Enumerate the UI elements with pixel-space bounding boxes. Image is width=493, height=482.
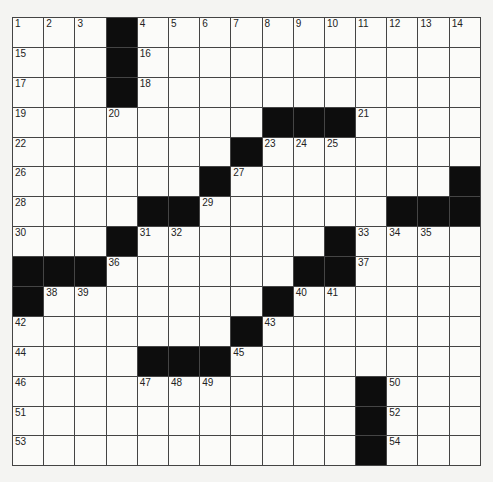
grid-cell[interactable] <box>74 77 105 107</box>
grid-cell[interactable] <box>324 316 355 346</box>
grid-cell[interactable] <box>106 286 137 316</box>
grid-cell[interactable]: 27 <box>230 166 261 196</box>
grid-cell[interactable] <box>137 137 168 167</box>
grid-cell[interactable] <box>106 406 137 436</box>
grid-cell[interactable] <box>43 107 74 137</box>
grid-cell[interactable] <box>43 166 74 196</box>
grid-cell[interactable] <box>324 406 355 436</box>
grid-cell[interactable]: 53 <box>12 435 43 465</box>
grid-cell[interactable] <box>324 77 355 107</box>
grid-cell[interactable] <box>293 346 324 376</box>
grid-cell[interactable] <box>199 107 230 137</box>
grid-cell[interactable] <box>386 107 417 137</box>
grid-cell[interactable] <box>74 435 105 465</box>
grid-cell[interactable] <box>449 286 480 316</box>
grid-cell[interactable] <box>293 47 324 77</box>
grid-cell[interactable]: 12 <box>386 17 417 47</box>
grid-cell[interactable] <box>43 47 74 77</box>
grid-cell[interactable] <box>386 77 417 107</box>
grid-cell[interactable] <box>324 435 355 465</box>
grid-cell[interactable] <box>74 107 105 137</box>
grid-cell[interactable] <box>262 376 293 406</box>
grid-cell[interactable]: 13 <box>417 17 448 47</box>
grid-cell[interactable] <box>417 77 448 107</box>
grid-cell[interactable]: 35 <box>417 226 448 256</box>
grid-cell[interactable]: 29 <box>199 196 230 226</box>
grid-cell[interactable] <box>106 316 137 346</box>
grid-cell[interactable] <box>168 435 199 465</box>
grid-cell[interactable] <box>355 47 386 77</box>
grid-cell[interactable] <box>199 286 230 316</box>
grid-cell[interactable]: 23 <box>262 137 293 167</box>
grid-cell[interactable] <box>417 406 448 436</box>
grid-cell[interactable] <box>168 107 199 137</box>
grid-cell[interactable] <box>293 77 324 107</box>
grid-cell[interactable] <box>262 226 293 256</box>
grid-cell[interactable] <box>386 256 417 286</box>
grid-cell[interactable] <box>449 77 480 107</box>
grid-cell[interactable] <box>74 166 105 196</box>
grid-cell[interactable]: 49 <box>199 376 230 406</box>
grid-cell[interactable] <box>43 406 74 436</box>
grid-cell[interactable] <box>386 286 417 316</box>
grid-cell[interactable]: 46 <box>12 376 43 406</box>
grid-cell[interactable] <box>324 376 355 406</box>
grid-cell[interactable] <box>449 346 480 376</box>
grid-cell[interactable] <box>43 346 74 376</box>
grid-cell[interactable] <box>199 406 230 436</box>
grid-cell[interactable] <box>106 346 137 376</box>
grid-cell[interactable] <box>43 226 74 256</box>
grid-cell[interactable] <box>449 376 480 406</box>
grid-cell[interactable]: 2 <box>43 17 74 47</box>
grid-cell[interactable] <box>168 77 199 107</box>
grid-cell[interactable] <box>386 346 417 376</box>
grid-cell[interactable]: 36 <box>106 256 137 286</box>
grid-cell[interactable] <box>262 406 293 436</box>
grid-cell[interactable] <box>137 256 168 286</box>
grid-cell[interactable] <box>386 137 417 167</box>
grid-cell[interactable] <box>293 166 324 196</box>
grid-cell[interactable] <box>324 196 355 226</box>
grid-cell[interactable] <box>74 346 105 376</box>
grid-cell[interactable] <box>199 316 230 346</box>
grid-cell[interactable] <box>137 107 168 137</box>
grid-cell[interactable]: 48 <box>168 376 199 406</box>
grid-cell[interactable] <box>449 316 480 346</box>
grid-cell[interactable]: 19 <box>12 107 43 137</box>
grid-cell[interactable] <box>355 77 386 107</box>
grid-cell[interactable]: 37 <box>355 256 386 286</box>
grid-cell[interactable] <box>43 376 74 406</box>
grid-cell[interactable] <box>262 47 293 77</box>
grid-cell[interactable] <box>417 166 448 196</box>
grid-cell[interactable] <box>262 346 293 376</box>
grid-cell[interactable] <box>106 435 137 465</box>
grid-cell[interactable]: 11 <box>355 17 386 47</box>
grid-cell[interactable] <box>43 196 74 226</box>
grid-cell[interactable]: 30 <box>12 226 43 256</box>
grid-cell[interactable] <box>168 137 199 167</box>
grid-cell[interactable]: 18 <box>137 77 168 107</box>
grid-cell[interactable]: 45 <box>230 346 261 376</box>
grid-cell[interactable] <box>137 166 168 196</box>
grid-cell[interactable]: 5 <box>168 17 199 47</box>
grid-cell[interactable] <box>230 47 261 77</box>
grid-cell[interactable] <box>293 406 324 436</box>
grid-cell[interactable]: 20 <box>106 107 137 137</box>
grid-cell[interactable]: 15 <box>12 47 43 77</box>
grid-cell[interactable] <box>74 137 105 167</box>
grid-cell[interactable]: 31 <box>137 226 168 256</box>
grid-cell[interactable] <box>355 196 386 226</box>
grid-cell[interactable]: 50 <box>386 376 417 406</box>
grid-cell[interactable] <box>293 435 324 465</box>
grid-cell[interactable] <box>74 226 105 256</box>
grid-cell[interactable] <box>137 406 168 436</box>
grid-cell[interactable]: 10 <box>324 17 355 47</box>
grid-cell[interactable] <box>417 256 448 286</box>
grid-cell[interactable] <box>168 47 199 77</box>
grid-cell[interactable] <box>355 166 386 196</box>
grid-cell[interactable]: 42 <box>12 316 43 346</box>
grid-cell[interactable]: 25 <box>324 137 355 167</box>
grid-cell[interactable]: 16 <box>137 47 168 77</box>
grid-cell[interactable] <box>137 286 168 316</box>
grid-cell[interactable] <box>43 137 74 167</box>
